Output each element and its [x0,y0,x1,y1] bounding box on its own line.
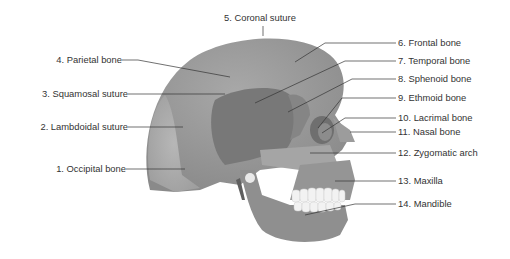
label-parietal-bone: 4. Parietal bone [56,54,122,65]
skull-diagram: 1. Occipital bone 2. Lambdoidal suture 3… [0,0,510,259]
label-coronal-suture: 5. Coronal suture [224,12,296,23]
label-maxilla: 13. Maxilla [398,175,443,186]
label-squamosal-suture: 3. Squamosal suture [42,88,128,99]
label-temporal-bone: 7. Temporal bone [398,55,470,66]
label-occipital-bone: 1. Occipital bone [56,163,126,174]
label-lacrimal-bone: 10. Lacrimal bone [398,112,473,123]
label-frontal-bone: 6. Frontal bone [398,37,461,48]
label-nasal-bone: 11. Nasal bone [398,126,460,137]
teeth [292,188,345,212]
label-mandible: 14. Mandible [398,198,452,209]
label-ethmoid-bone: 9. Ethmoid bone [398,92,466,103]
label-lambdoidal-suture: 2. Lambdoidal suture [40,121,128,132]
label-sphenoid-bone: 8. Sphenoid bone [398,73,472,84]
label-zygomatic-arch: 12. Zygomatic arch [398,147,478,158]
